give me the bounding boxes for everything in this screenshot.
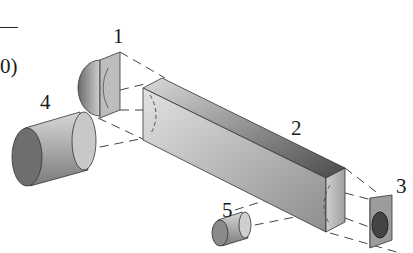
part-3-cap bbox=[370, 195, 392, 248]
label-part-5: 5 bbox=[222, 200, 233, 221]
exploded-diagram: 0) bbox=[0, 0, 413, 253]
label-part-2: 2 bbox=[291, 118, 302, 139]
part-4-cylinder bbox=[12, 112, 96, 186]
part-2-bar bbox=[143, 78, 345, 232]
label-part-4: 4 bbox=[40, 92, 51, 113]
part-1-cap bbox=[78, 52, 120, 118]
label-part-1: 1 bbox=[113, 26, 124, 47]
diagram-graphic bbox=[0, 0, 413, 253]
label-part-3: 3 bbox=[396, 176, 407, 197]
